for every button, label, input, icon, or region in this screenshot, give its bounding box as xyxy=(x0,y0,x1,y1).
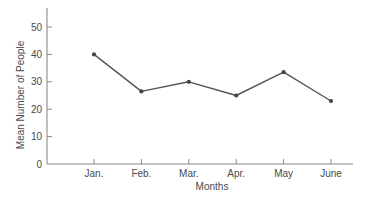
series-line xyxy=(94,54,331,101)
x-tick-label: Mar. xyxy=(179,168,198,179)
data-point-marker xyxy=(139,89,143,93)
data-series xyxy=(92,52,333,103)
y-axis: 01020304050 xyxy=(31,8,52,170)
x-tick-label: Apr. xyxy=(227,168,245,179)
data-point-marker xyxy=(329,99,333,103)
y-tick-label: 30 xyxy=(31,76,43,87)
x-axis-label: Months xyxy=(196,181,229,192)
x-tick-label: Jan. xyxy=(85,168,104,179)
y-tick-label: 20 xyxy=(31,104,43,115)
x-tick-label: Feb. xyxy=(131,168,151,179)
x-axis: Jan.Feb.Mar.Apr.MayJune xyxy=(47,159,353,179)
y-tick-label: 40 xyxy=(31,49,43,60)
y-axis-label: Mean Number of People xyxy=(15,40,26,149)
line-chart: 01020304050 Jan.Feb.Mar.Apr.MayJune Mont… xyxy=(0,0,371,199)
x-tick-label: June xyxy=(320,168,342,179)
data-point-marker xyxy=(282,70,286,74)
y-tick-label: 0 xyxy=(36,159,42,170)
y-tick-label: 10 xyxy=(31,131,43,142)
y-tick-label: 50 xyxy=(31,22,43,33)
x-tick-label: May xyxy=(274,168,293,179)
data-point-marker xyxy=(234,93,238,97)
data-point-marker xyxy=(187,80,191,84)
data-point-marker xyxy=(92,52,96,56)
